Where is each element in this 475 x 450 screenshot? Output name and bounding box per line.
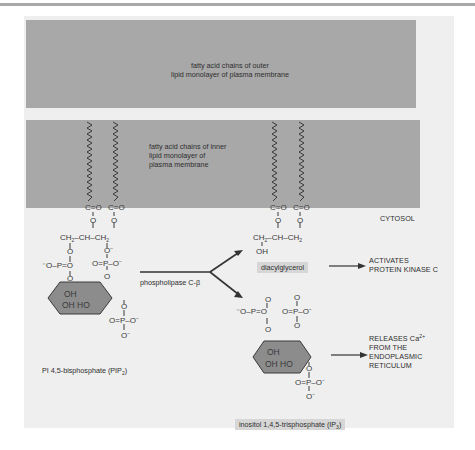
calcium-charge: 2+ <box>419 333 425 339</box>
inner-label-line3: plasma membrane <box>149 160 227 169</box>
svg-text:O: O <box>265 295 271 304</box>
svg-text:O: O <box>121 302 127 311</box>
enzyme-arrow-branch-up <box>210 253 238 272</box>
dag-effect-label: ACTIVATES PROTEIN KINASE C <box>369 256 438 274</box>
svg-text:OH: OH <box>267 347 280 357</box>
ip3-name-text: inositol 1,4,5-trisphosphate (IP <box>239 420 336 429</box>
ip3-effect-line1: RELEASES Ca2+ <box>369 334 425 343</box>
inner-monolayer-label: fatty acid chains of inner lipid monolay… <box>149 142 227 169</box>
svg-text:O: O <box>111 216 117 225</box>
svg-text:O: O <box>67 247 73 256</box>
ip3-effect-text: RELEASES Ca <box>369 334 419 343</box>
pip2-ester-right: C=O <box>108 203 125 212</box>
svg-text:O=P–O−: O=P–O− <box>295 377 325 387</box>
inner-label-line2: lipid monolayer of <box>149 151 227 160</box>
svg-text:O=P–O−: O=P–O− <box>92 258 122 268</box>
svg-text:CH2–CH–CH2: CH2–CH–CH2 <box>60 233 109 243</box>
svg-text:O−: O− <box>121 330 130 340</box>
pip2-ester-left: C=O <box>85 203 102 212</box>
pip2-name-label: PI 4,5-bisphosphate (PIP2) <box>42 366 127 375</box>
svg-text:⁻O–P=O: ⁻O–P=O <box>236 307 267 316</box>
ip3-name-end: ) <box>339 420 341 429</box>
svg-text:C=O: C=O <box>293 203 310 212</box>
arrowhead-right-icon <box>358 263 366 269</box>
ip3-effect-line4: RETICULUM <box>369 361 425 370</box>
ip3-name-label: inositol 1,4,5-trisphosphate (IP3) <box>235 419 345 430</box>
svg-text:O: O <box>275 216 281 225</box>
outer-label-line1: fatty acid chains of outer <box>140 61 320 70</box>
arrowhead-right-icon-2 <box>360 352 368 358</box>
pip2-name-text: PI 4,5-bisphosphate (PIP <box>42 366 122 375</box>
svg-text:O: O <box>265 325 271 334</box>
svg-text:O=P–O−: O=P–O− <box>109 315 139 325</box>
svg-text:OH HO: OH HO <box>265 359 293 369</box>
dag-name-label: diacylglycerol <box>257 262 308 273</box>
svg-text:OH: OH <box>256 247 268 256</box>
enzyme-label: phospholipase C-β <box>140 278 200 287</box>
outer-label-line2: lipid monolayer of plasma membrane <box>140 70 320 79</box>
svg-text:O: O <box>306 364 312 373</box>
dag-effect-line2: PROTEIN KINASE C <box>369 265 438 274</box>
svg-text:OH: OH <box>64 289 77 299</box>
svg-text:O−: O− <box>306 391 315 401</box>
svg-text:O: O <box>297 216 303 225</box>
svg-text:⁻O–P=O: ⁻O–P=O <box>42 261 73 270</box>
svg-text:O: O <box>294 293 300 302</box>
svg-text:O−: O− <box>104 245 113 255</box>
ip3-effect-label: RELEASES Ca2+ FROM THE ENDOPLASMIC RETIC… <box>369 334 425 370</box>
svg-text:CH2–CH–CH2: CH2–CH–CH2 <box>253 233 302 243</box>
pip2-fatty-chain-left <box>87 122 92 201</box>
dag-fatty-chain-right <box>299 122 304 201</box>
ip3-effect-line3: ENDOPLASMIC <box>369 352 425 361</box>
inner-label-line1: fatty acid chains of inner <box>149 142 227 151</box>
svg-text:O: O <box>67 274 73 283</box>
ip3-effect-line2: FROM THE <box>369 343 425 352</box>
svg-text:O: O <box>90 216 96 225</box>
svg-text:OH HO: OH HO <box>62 300 90 310</box>
pip2-name-end: ) <box>125 366 127 375</box>
svg-text:O: O <box>294 321 300 330</box>
enzyme-arrow-branch-down <box>210 272 238 294</box>
svg-text:O=P–O−: O=P–O− <box>282 306 312 316</box>
outer-monolayer-label: fatty acid chains of outer lipid monolay… <box>140 61 320 79</box>
svg-text:O: O <box>104 272 110 281</box>
cytosol-label: CYTOSOL <box>380 214 415 223</box>
dag-fatty-chain-left <box>272 122 277 201</box>
dag-effect-line1: ACTIVATES <box>369 256 438 265</box>
pip2-fatty-chain-right <box>113 122 118 201</box>
svg-text:C=O: C=O <box>270 203 287 212</box>
